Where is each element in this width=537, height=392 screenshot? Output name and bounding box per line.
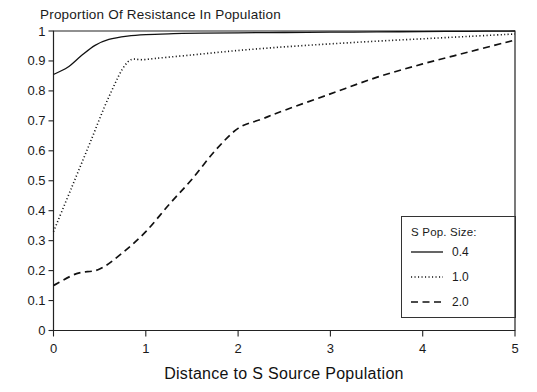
series-line-2-0	[54, 40, 516, 286]
data-series-layer	[54, 31, 516, 286]
legend-item-2-0: 2.0	[411, 295, 469, 309]
x-tick-label: 3	[327, 341, 334, 356]
y-tick-label: 0.9	[27, 53, 45, 68]
y-tick-label: 0.7	[27, 113, 45, 128]
y-tick-label: 0.2	[27, 263, 45, 278]
x-axis-title: Distance to S Source Population	[164, 365, 404, 382]
legend-item-0-4: 0.4	[411, 245, 469, 259]
x-tick-label: 2	[234, 341, 241, 356]
plot-frame	[54, 31, 516, 331]
legend-item-1-0: 1.0	[411, 270, 469, 284]
y-axis-ticks: 00.10.20.30.40.50.60.70.80.91	[27, 24, 53, 339]
x-axis-ticks: 012345	[50, 331, 519, 356]
series-line-0-4	[54, 31, 516, 74]
y-tick-label: 0.4	[27, 203, 45, 218]
legend-entries: 0.41.02.0	[411, 245, 469, 309]
y-tick-label: 0.8	[27, 83, 45, 98]
legend: S Pop. Size: 0.41.02.0	[402, 217, 516, 318]
y-tick-label: 1	[38, 24, 45, 39]
legend-label: 2.0	[452, 295, 469, 309]
legend-label: 1.0	[452, 270, 469, 284]
legend-label: 0.4	[452, 245, 469, 259]
series-line-1-0	[54, 34, 516, 232]
x-tick-label: 1	[142, 341, 149, 356]
legend-title: S Pop. Size:	[411, 226, 477, 238]
y-tick-label: 0.5	[27, 173, 45, 188]
x-tick-label: 0	[50, 341, 57, 356]
y-tick-label: 0.1	[27, 293, 45, 308]
chart-figure: Proportion Of Resistance In Population 0…	[0, 0, 537, 392]
chart-svg: Proportion Of Resistance In Population 0…	[0, 0, 537, 392]
x-tick-label: 5	[511, 341, 518, 356]
y-tick-label: 0.6	[27, 143, 45, 158]
y-tick-label: 0	[38, 323, 45, 338]
x-tick-label: 4	[419, 341, 426, 356]
y-tick-label: 0.3	[27, 233, 45, 248]
chart-title: Proportion Of Resistance In Population	[40, 7, 281, 22]
